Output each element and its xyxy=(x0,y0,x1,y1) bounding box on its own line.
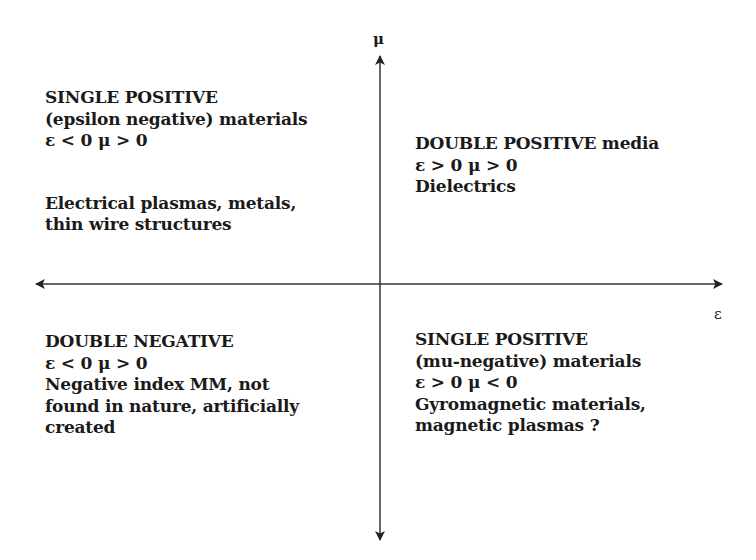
quadrant-top-left: SINGLE POSITIVE (epsilon negative) mater… xyxy=(45,87,307,236)
quadrant-examples: Gyromagnetic materials, xyxy=(415,394,646,416)
axes xyxy=(0,0,756,560)
quadrant-examples: Negative index MM, not xyxy=(45,374,299,396)
mu-axis-label: μ xyxy=(373,30,384,48)
quadrant-condition: ε > 0 μ > 0 xyxy=(415,155,659,177)
quadrant-condition: ε > 0 μ < 0 xyxy=(415,372,646,394)
quadrant-condition: ε < 0 μ > 0 xyxy=(45,130,307,152)
quadrant-heading: SINGLE POSITIVE xyxy=(415,329,646,351)
quadrant-heading: SINGLE POSITIVE xyxy=(45,87,307,109)
quadrant-bottom-right: SINGLE POSITIVE (mu-negative) materials … xyxy=(415,329,646,437)
quadrant-examples: created xyxy=(45,417,299,439)
quadrant-condition: ε < 0 μ > 0 xyxy=(45,353,299,375)
quadrant-subheading: (epsilon negative) materials xyxy=(45,109,307,131)
quadrant-heading: DOUBLE POSITIVE xyxy=(415,133,596,153)
quadrant-examples: thin wire structures xyxy=(45,214,307,236)
quadrant-top-right: DOUBLE POSITIVE media ε > 0 μ > 0 Dielec… xyxy=(415,133,659,198)
quadrant-bottom-left: DOUBLE NEGATIVE ε < 0 μ > 0 Negative ind… xyxy=(45,331,299,439)
quadrant-examples: Electrical plasmas, metals, xyxy=(45,193,307,215)
quadrant-subheading: (mu-negative) materials xyxy=(415,351,646,373)
quadrant-heading: DOUBLE NEGATIVE xyxy=(45,331,299,353)
epsilon-axis-label: ε xyxy=(714,305,722,323)
quadrant-heading-suffix: media xyxy=(596,133,659,153)
quadrant-examples: Dielectrics xyxy=(415,176,659,198)
quadrant-examples: found in nature, artificially xyxy=(45,396,299,418)
quadrant-examples: magnetic plasmas ? xyxy=(415,415,646,437)
